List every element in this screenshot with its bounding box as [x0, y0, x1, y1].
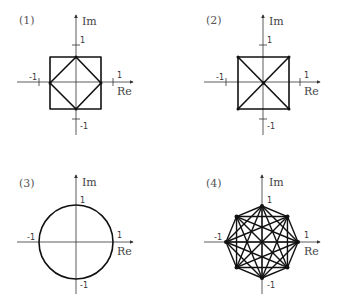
tick-label-y-neg: -1: [267, 122, 275, 131]
tick-label-x-neg: -1: [29, 73, 37, 82]
tick-label-x-pos: 1: [304, 231, 309, 240]
panel-label: (2): [206, 14, 222, 27]
panel-2: (2) Im Re -1 1 1 -1: [204, 14, 320, 135]
vertex: [285, 215, 289, 219]
tick-label-x-neg: -1: [216, 73, 224, 82]
re-axis-label: Re: [304, 245, 319, 258]
im-axis-label: Im: [82, 15, 97, 28]
tick-label-y-neg: -1: [80, 122, 88, 131]
tick-label-x-pos: 1: [304, 71, 309, 80]
panel-1: (1) Im Re -1 1 1 -1: [17, 14, 133, 135]
panel-label: (3): [19, 177, 35, 190]
vertex: [235, 265, 239, 269]
tick-label-y-pos: 1: [80, 196, 85, 205]
re-axis-label: Re: [117, 245, 132, 258]
tick-label-x-neg: -1: [214, 233, 222, 242]
vertex: [285, 265, 289, 269]
im-axis-label: Im: [269, 15, 284, 28]
tick-label-y-pos: 1: [267, 196, 272, 205]
vertex: [235, 215, 239, 219]
panel-label: (1): [19, 14, 35, 27]
panel-3: (3) Im Re -1 1 1 -1: [17, 175, 133, 294]
inscribed-diamond: [50, 57, 101, 109]
vertex: [296, 240, 300, 244]
tick-label-y-neg: -1: [80, 281, 88, 290]
tick-label-x-pos: 1: [117, 231, 122, 240]
re-axis-label: Re: [304, 85, 319, 98]
tick-label-y-pos: 1: [80, 36, 85, 45]
octagon-complete-graph: [224, 204, 300, 280]
tick-label-y-neg: -1: [267, 281, 275, 290]
tick-label-x-neg: -1: [27, 233, 35, 242]
outer-square: [50, 57, 101, 109]
panel-label: (4): [206, 177, 222, 190]
re-axis-label: Re: [117, 85, 132, 98]
im-axis-label: Im: [82, 176, 97, 189]
vertex: [224, 240, 228, 244]
panel-4: (4) Im Re -1 1 1 -1: [204, 175, 320, 294]
im-axis-label: Im: [269, 176, 284, 189]
vertex: [260, 276, 264, 280]
tick-label-x-pos: 1: [117, 71, 122, 80]
vertex: [260, 204, 264, 208]
diagram-canvas: (1) Im Re -1 1 1 -1 (2) Im Re -1 1 1 -1: [0, 0, 339, 301]
tick-label-y-pos: 1: [267, 36, 272, 45]
